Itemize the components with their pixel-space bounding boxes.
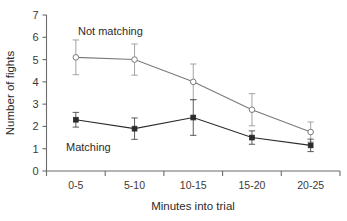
data-point-marker <box>73 55 79 61</box>
fights-over-time-line-chart: 01234567 0-55-1010-1515-2020-25 Not matc… <box>0 0 347 221</box>
y-tick-label: 2 <box>32 120 38 132</box>
data-point-marker <box>308 143 313 148</box>
y-tick-label: 6 <box>32 31 38 43</box>
y-tick-label: 7 <box>32 9 38 21</box>
series-label-not-matching: Not matching <box>78 25 143 37</box>
x-category-label: 10-15 <box>180 179 207 191</box>
y-tick-label: 4 <box>32 76 38 88</box>
chart-container: 01234567 0-55-1010-1515-2020-25 Not matc… <box>0 0 347 221</box>
data-point-marker <box>132 126 137 131</box>
data-point-marker <box>249 107 255 113</box>
x-axis-title: Minutes into trial <box>151 200 235 212</box>
chart-background <box>0 0 347 221</box>
y-tick-label: 3 <box>32 98 38 110</box>
y-tick-label: 5 <box>32 54 38 66</box>
x-category-label: 15-20 <box>239 179 266 191</box>
x-category-label: 20-25 <box>297 179 324 191</box>
data-point-marker <box>308 129 314 135</box>
y-tick-label: 1 <box>32 143 38 155</box>
data-point-marker <box>73 117 78 122</box>
series-label-matching: Matching <box>66 141 111 153</box>
data-point-marker <box>132 57 138 63</box>
x-category-label: 5-10 <box>124 179 145 191</box>
data-point-marker <box>190 79 196 85</box>
x-category-label: 0-5 <box>68 179 83 191</box>
data-point-marker <box>191 115 196 120</box>
data-point-marker <box>250 135 255 140</box>
y-tick-label: 0 <box>32 165 38 177</box>
y-axis-title: Number of fights <box>4 51 16 136</box>
